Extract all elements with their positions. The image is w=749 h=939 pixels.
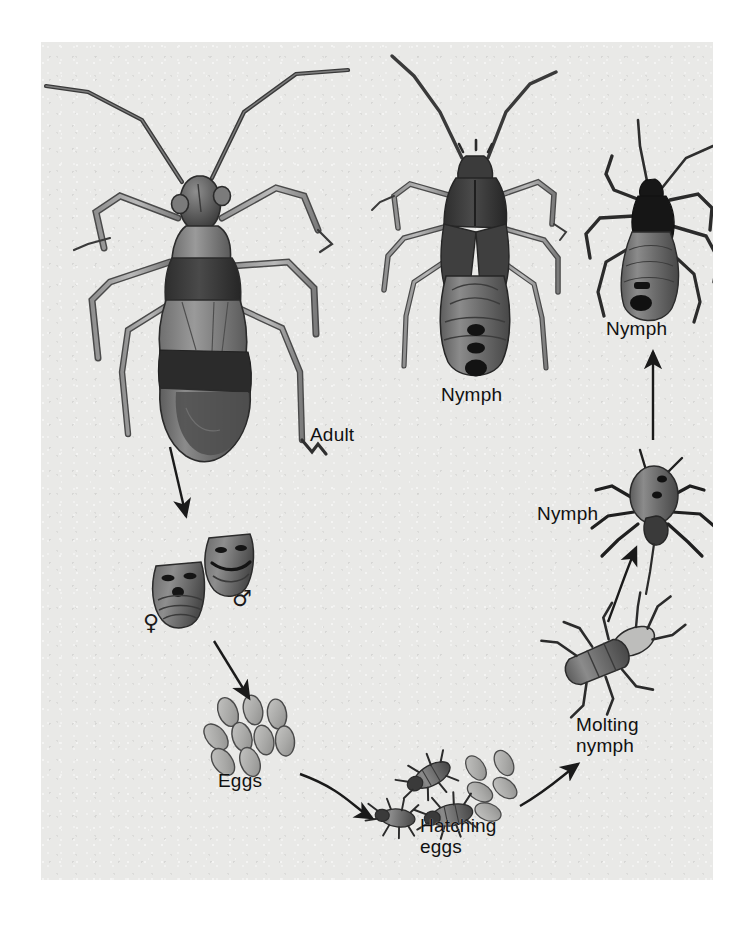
- arrow-genitalia-to-eggs: [214, 641, 249, 698]
- male-symbol: ♂: [232, 588, 252, 610]
- nymph-small-illustration: [586, 120, 722, 322]
- genitalia-illustrations: [153, 534, 254, 628]
- life-cycle-figure: Adult Nymph Nymph Nymph Molting nymph Ha…: [0, 0, 749, 939]
- label-nymph-first-instar: Nymph: [537, 503, 598, 524]
- nymph-large-illustration: [372, 56, 566, 377]
- nymph-first-instar-illustration: [592, 450, 714, 594]
- label-nymph-large: Nymph: [441, 384, 502, 405]
- label-eggs: Eggs: [218, 770, 262, 791]
- arrow-eggs-to-hatching: [300, 774, 372, 818]
- label-hatching-eggs: Hatching eggs: [420, 815, 497, 857]
- female-symbol: ♀: [143, 612, 159, 634]
- arrow-molting-to-first-instar: [608, 548, 636, 622]
- life-cycle-artwork: [0, 0, 749, 939]
- arrow-hatching-to-molting: [520, 764, 578, 806]
- adult-bug-illustration: [46, 70, 348, 462]
- molting-nymph-illustration: [535, 577, 706, 728]
- arrow-adult-to-genitalia: [170, 447, 186, 516]
- label-molting-nymph: Molting nymph: [576, 714, 639, 756]
- label-nymph-small: Nymph: [606, 318, 667, 339]
- label-adult: Adult: [310, 424, 354, 445]
- egg-cluster-illustration: [199, 693, 296, 779]
